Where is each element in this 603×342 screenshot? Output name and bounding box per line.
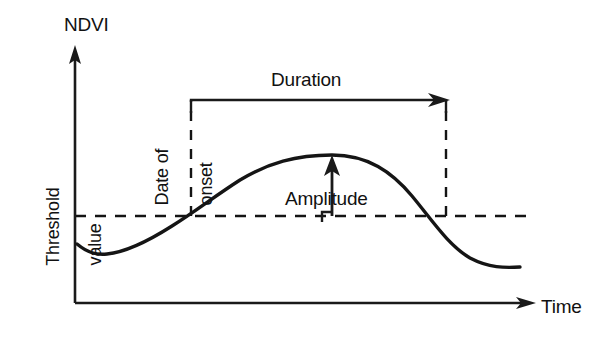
ndvi-phenology-diagram — [0, 0, 603, 342]
threshold-value-label: Threshold value — [22, 187, 106, 275]
date-of-onset-line1: Date of — [152, 149, 172, 206]
duration-bracket — [191, 100, 438, 113]
threshold-value-line1: Threshold — [43, 187, 63, 265]
date-of-onset-label: Date of onset — [129, 149, 217, 215]
y-axis-title: NDVI — [64, 14, 109, 36]
date-of-onset-line2: onset — [196, 162, 216, 205]
duration-label: Duration — [271, 69, 341, 91]
threshold-value-line2: value — [85, 223, 105, 265]
amplitude-label: Amplitude — [285, 188, 368, 210]
x-axis-title: Time — [541, 296, 582, 318]
